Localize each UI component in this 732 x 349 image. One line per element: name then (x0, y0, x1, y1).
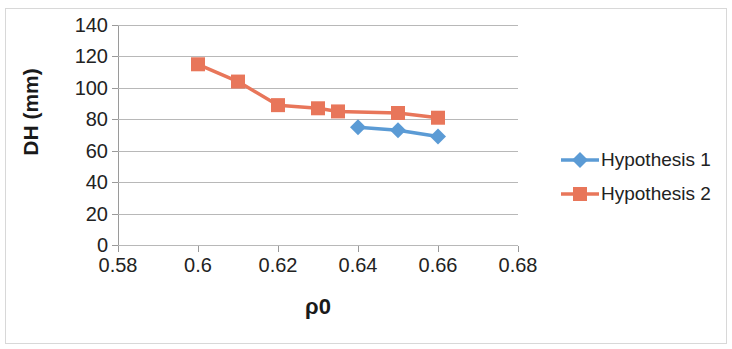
x-axis-tick-label: 0.68 (499, 254, 538, 277)
x-axis-tick (278, 246, 279, 252)
y-axis-tick-label: 120 (75, 46, 108, 66)
y-axis-tick-label: 40 (86, 172, 108, 192)
x-axis-tick-label: 0.6 (184, 254, 212, 277)
y-axis-title: DH (mm) (19, 17, 43, 207)
x-axis-tick-label: 0.58 (99, 254, 138, 277)
data-point-marker (391, 106, 405, 120)
plot-area (118, 25, 518, 245)
x-axis-tick (118, 246, 119, 252)
y-axis-tick-label: 20 (86, 204, 108, 224)
x-axis-tick (198, 246, 199, 252)
y-axis-tick-label: 100 (75, 78, 108, 98)
y-axis-tick-labels: 020406080100120140 (40, 0, 108, 349)
data-point-marker (350, 119, 366, 135)
x-axis-tick (358, 246, 359, 252)
x-axis-tick-label: 0.62 (259, 254, 298, 277)
x-axis-tick (438, 246, 439, 252)
chart-legend: Hypothesis 1Hypothesis 2 (560, 143, 725, 211)
series-2 (191, 57, 445, 124)
legend-item-1[interactable]: Hypothesis 1 (560, 143, 725, 177)
x-axis-title: ρ0 (118, 294, 518, 320)
y-axis-tick-label: 140 (75, 15, 108, 35)
data-series-layer (118, 25, 518, 245)
y-axis-tick-label: 0 (97, 235, 108, 255)
x-axis-tick (518, 246, 519, 252)
legend-diamond-icon (560, 149, 600, 171)
x-axis-tick-label: 0.64 (339, 254, 378, 277)
data-point-marker (191, 57, 205, 71)
data-point-marker (430, 129, 446, 145)
gridline (118, 245, 518, 246)
chart-container: 020406080100120140 0.580.60.620.640.660.… (0, 0, 732, 349)
data-point-marker (231, 75, 245, 89)
legend-item-2[interactable]: Hypothesis 2 (560, 177, 725, 211)
legend-label: Hypothesis 1 (601, 149, 711, 171)
legend-label: Hypothesis 2 (601, 183, 711, 205)
data-point-marker (431, 111, 445, 125)
data-point-marker (271, 98, 285, 112)
y-axis-tick-label: 80 (86, 109, 108, 129)
data-point-marker (390, 122, 406, 138)
data-point-marker (573, 187, 587, 201)
y-axis-tick-label: 60 (86, 141, 108, 161)
data-point-marker (572, 152, 588, 168)
x-axis-tick-label: 0.66 (419, 254, 458, 277)
data-point-marker (331, 104, 345, 118)
data-point-marker (311, 101, 325, 115)
legend-square-icon (560, 183, 600, 205)
